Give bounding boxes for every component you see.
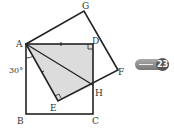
label-b: B	[17, 116, 24, 126]
label-a: A	[15, 39, 23, 49]
angle-arc	[26, 56, 33, 58]
label-h: H	[95, 88, 103, 98]
badge-number: 23	[156, 58, 169, 71]
label-f: F	[118, 67, 124, 77]
reference-badge[interactable]: 23	[135, 59, 169, 70]
arrow-right-icon	[139, 64, 153, 65]
label-d: D	[92, 36, 99, 46]
angle-label: 30°	[9, 66, 23, 75]
label-e: E	[50, 103, 57, 113]
shaded-region	[26, 44, 93, 101]
label-c: C	[92, 116, 99, 126]
label-g: G	[82, 1, 89, 11]
